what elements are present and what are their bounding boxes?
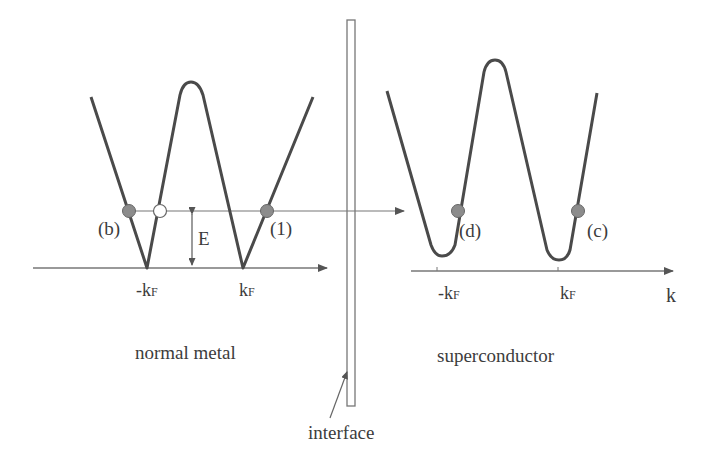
label-point-c: (c) bbox=[587, 220, 608, 242]
label-point-1: (1) bbox=[270, 218, 292, 240]
label-energy: E bbox=[198, 228, 210, 250]
left-pos-k-sub: F bbox=[248, 285, 255, 299]
point-1-dot bbox=[261, 205, 274, 218]
label-point-b: (b) bbox=[98, 218, 120, 240]
point-c-dot bbox=[572, 205, 585, 218]
label-right-pos-kf: kF bbox=[560, 283, 576, 304]
right-pos-k-sub: F bbox=[569, 288, 576, 302]
left-neg-k-text: -k bbox=[136, 280, 151, 300]
left-neg-k-sub: F bbox=[151, 285, 158, 299]
label-interface: interface bbox=[308, 422, 374, 444]
point-d-dot bbox=[452, 205, 465, 218]
label-k-axis: k bbox=[666, 284, 676, 307]
left-pos-k-text: k bbox=[239, 280, 248, 300]
right-neg-k-sub: F bbox=[453, 288, 460, 302]
label-right-neg-kf: -kF bbox=[438, 283, 460, 304]
right-neg-k-text: -k bbox=[438, 283, 453, 303]
label-left-neg-kf: -kF bbox=[136, 280, 158, 301]
label-left-pos-kf: kF bbox=[239, 280, 255, 301]
label-superconductor: superconductor bbox=[437, 345, 554, 367]
label-point-d: (d) bbox=[459, 220, 481, 242]
label-normal-metal: normal metal bbox=[135, 342, 236, 364]
right-pos-k-text: k bbox=[560, 283, 569, 303]
hole-open-dot bbox=[154, 205, 167, 218]
point-b-dot bbox=[123, 205, 136, 218]
interface-pointer-arrow bbox=[330, 372, 347, 418]
superconductor-dispersion-curve bbox=[387, 60, 597, 260]
interface-bar bbox=[347, 20, 355, 406]
